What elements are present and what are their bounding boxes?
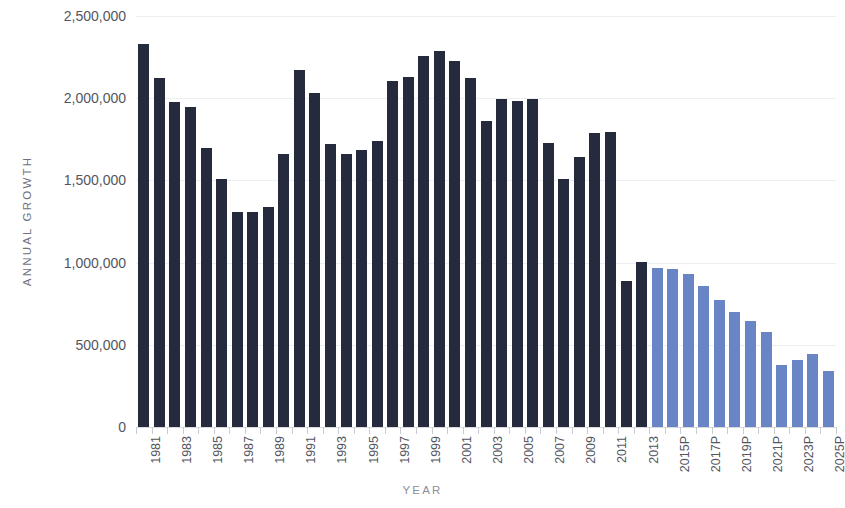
- x-axis-tick-label: 2013: [647, 436, 661, 464]
- x-axis-tick-label: 2023P: [802, 436, 816, 472]
- bar[interactable]: [418, 56, 429, 427]
- x-axis-tick: [634, 427, 635, 434]
- bar[interactable]: [309, 93, 320, 427]
- bar[interactable]: [621, 281, 632, 427]
- x-axis-tick: [478, 427, 479, 434]
- plot-area: [136, 16, 836, 427]
- x-axis-tick: [509, 427, 510, 434]
- bar[interactable]: [341, 154, 352, 427]
- x-axis-tick: [447, 427, 448, 434]
- x-axis-tick: [603, 427, 604, 434]
- bar[interactable]: [729, 312, 740, 427]
- bar[interactable]: [761, 332, 772, 427]
- bar[interactable]: [745, 321, 756, 427]
- bars-group: [136, 16, 836, 427]
- x-axis-tick: [758, 427, 759, 434]
- x-axis-tick: [587, 427, 588, 434]
- bar[interactable]: [698, 286, 709, 427]
- bar[interactable]: [263, 207, 274, 427]
- x-axis-tick: [743, 427, 744, 434]
- x-axis-tick: [214, 427, 215, 434]
- x-axis-tick: [307, 427, 308, 434]
- bar[interactable]: [714, 300, 725, 427]
- x-axis-tick: [152, 427, 153, 434]
- bar[interactable]: [481, 121, 492, 427]
- bar[interactable]: [496, 99, 507, 427]
- x-axis-tick-label: 2007: [553, 436, 567, 464]
- x-axis-tick-labels: 1981198319851987198919911993199519971999…: [136, 436, 836, 482]
- bar[interactable]: [543, 143, 554, 427]
- bar[interactable]: [325, 144, 336, 427]
- bar[interactable]: [403, 77, 414, 427]
- bar[interactable]: [449, 61, 460, 427]
- bar[interactable]: [185, 107, 196, 427]
- bar[interactable]: [216, 179, 227, 427]
- y-axis-tick-label: 2,000,000: [0, 90, 126, 106]
- x-axis-tick-label: 2001: [460, 436, 474, 464]
- bar[interactable]: [683, 274, 694, 427]
- bar[interactable]: [278, 154, 289, 427]
- x-axis-tick: [727, 427, 728, 434]
- x-axis-tick: [432, 427, 433, 434]
- bar[interactable]: [387, 81, 398, 427]
- x-axis-tick: [463, 427, 464, 434]
- bar[interactable]: [201, 148, 212, 427]
- x-axis-tick-label: 2011: [615, 436, 629, 463]
- bar[interactable]: [574, 157, 585, 427]
- y-axis-tick-label: 0: [0, 419, 126, 435]
- bar[interactable]: [138, 44, 149, 427]
- x-axis-tick: [525, 427, 526, 434]
- bar[interactable]: [512, 101, 523, 427]
- x-axis-tick: [572, 427, 573, 434]
- bar[interactable]: [294, 70, 305, 427]
- x-axis-tick: [198, 427, 199, 434]
- bar[interactable]: [792, 360, 803, 427]
- x-axis-tick: [354, 427, 355, 434]
- bar[interactable]: [527, 99, 538, 427]
- bar[interactable]: [465, 78, 476, 427]
- x-axis-tick: [618, 427, 619, 434]
- bar[interactable]: [356, 150, 367, 427]
- bar[interactable]: [247, 212, 258, 427]
- x-axis-tick: [649, 427, 650, 434]
- bar[interactable]: [667, 269, 678, 427]
- x-axis-tick: [183, 427, 184, 434]
- x-axis-tick-label: 1987: [242, 436, 256, 464]
- x-axis-tick-label: 2003: [491, 436, 505, 464]
- x-axis-tick: [245, 427, 246, 434]
- x-axis-tick: [680, 427, 681, 434]
- bar[interactable]: [434, 51, 445, 427]
- y-axis-tick-labels: 0500,0001,000,0001,500,0002,000,0002,500…: [0, 0, 126, 427]
- bar[interactable]: [169, 102, 180, 428]
- x-axis-tick-label: 1991: [304, 436, 318, 464]
- x-axis-tick: [338, 427, 339, 434]
- x-axis-tick: [136, 427, 137, 434]
- x-axis-tick: [400, 427, 401, 434]
- bar[interactable]: [232, 212, 243, 427]
- x-axis-tick: [292, 427, 293, 434]
- x-axis-ticks: [136, 427, 836, 434]
- bar[interactable]: [589, 133, 600, 427]
- bar[interactable]: [807, 354, 818, 427]
- bar[interactable]: [154, 78, 165, 427]
- x-axis-tick: [820, 427, 821, 434]
- bar[interactable]: [372, 141, 383, 427]
- x-axis-tick-label: 1995: [367, 436, 381, 464]
- x-axis-tick: [696, 427, 697, 434]
- x-axis-tick-label: 1985: [211, 436, 225, 464]
- bar[interactable]: [605, 132, 616, 427]
- x-axis-tick: [789, 427, 790, 434]
- bar[interactable]: [776, 365, 787, 427]
- bar[interactable]: [558, 179, 569, 427]
- x-axis-tick: [774, 427, 775, 434]
- bar[interactable]: [823, 371, 834, 427]
- x-axis-tick: [260, 427, 261, 434]
- x-axis-tick: [665, 427, 666, 434]
- x-axis-title: YEAR: [0, 484, 845, 496]
- x-axis-tick: [540, 427, 541, 434]
- bar[interactable]: [636, 262, 647, 427]
- x-axis-tick-label: 2009: [584, 436, 598, 464]
- x-axis-tick: [369, 427, 370, 434]
- x-axis-tick-label: 2025P: [833, 436, 845, 472]
- bar[interactable]: [652, 268, 663, 427]
